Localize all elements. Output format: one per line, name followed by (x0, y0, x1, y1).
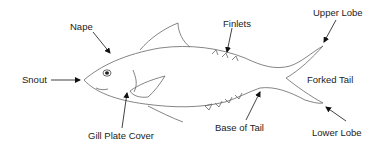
fish-outline (84, 23, 323, 122)
label-lower-lobe: Lower Lobe (312, 128, 362, 138)
gill-arrow-icon (122, 93, 127, 128)
pupil-icon (105, 71, 109, 75)
label-base-of-tail: Base of Tail (215, 123, 264, 133)
label-upper-lobe: Upper Lobe (313, 8, 363, 18)
arrows (51, 20, 346, 128)
nape-arrow-icon (93, 32, 110, 53)
label-finlets: Finlets (223, 19, 251, 29)
base-of-tail-arrow-icon (246, 92, 260, 120)
fish-illustration (0, 0, 380, 146)
fish-anatomy-diagram: Snout Nape Gill Plate Cover Finlets Base… (0, 0, 380, 146)
label-gill-plate-cover: Gill Plate Cover (88, 131, 154, 141)
lower-lobe-arrow-icon (326, 107, 346, 121)
upper-lobe-arrow-icon (324, 20, 336, 42)
label-nape: Nape (70, 22, 93, 32)
label-forked-tail: Forked Tail (307, 75, 353, 85)
label-snout: Snout (22, 75, 47, 85)
finlets-arrow-icon (227, 28, 232, 52)
